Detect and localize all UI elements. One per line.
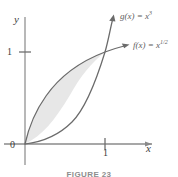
- curve-label-f: f(x) = x1/2: [133, 41, 168, 50]
- figure-container: y x 1 1 0 g(x) = x3 f(x) = x1/2 FIGURE 2…: [0, 0, 178, 177]
- y-axis-label: y: [14, 14, 19, 25]
- curve-label-g-exponent: 3: [149, 10, 152, 16]
- x-axis-label: x: [146, 143, 151, 154]
- plot-area: [0, 0, 178, 177]
- curve-label-f-exponent: 1/2: [160, 39, 168, 45]
- curve-label-f-text: f(x) = x: [133, 40, 160, 50]
- region-fill: [25, 52, 105, 144]
- figure-caption: FIGURE 23: [0, 170, 178, 177]
- curve-label-g: g(x) = x3: [120, 12, 152, 21]
- curve-label-g-text: g(x) = x: [120, 11, 149, 21]
- x-tick-label-1: 1: [103, 148, 108, 158]
- y-tick-label-1: 1: [7, 47, 12, 57]
- origin-label: 0: [10, 140, 15, 150]
- curve-g-arrowhead: [109, 15, 115, 22]
